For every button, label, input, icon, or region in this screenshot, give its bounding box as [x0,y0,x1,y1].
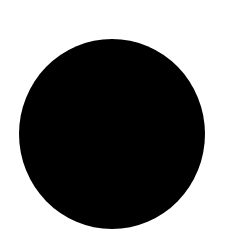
black-circle [19,39,205,229]
canvas [0,0,232,236]
